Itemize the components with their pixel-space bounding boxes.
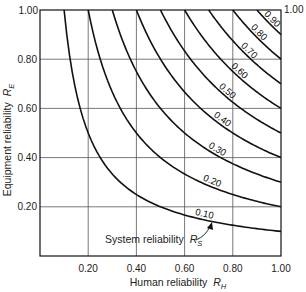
annotation-text: System reliability (105, 233, 185, 245)
y-axis-label: Equipment reliability RE (1, 83, 16, 196)
contour-label: 0.70 (239, 40, 260, 61)
y-tick-label: 0.80 (18, 54, 38, 65)
y-tick-label: 0.20 (18, 201, 38, 212)
annotation-arrowhead-icon (207, 222, 213, 230)
annotation-sub: S (197, 239, 202, 248)
annotation-system-reliability: System reliability RS (105, 233, 202, 248)
x-tick-label: 0.40 (127, 263, 147, 274)
x-tick-label: 0.20 (78, 263, 98, 274)
y-axis-label-sub: E (7, 83, 16, 89)
y-tick-label: 1.00 (19, 5, 39, 16)
contour-label: 0.50 (217, 80, 238, 100)
x-tick-label: 0.80 (223, 263, 243, 274)
y-axis-label-text: Equipment reliability (1, 102, 13, 197)
reliability-chart: 0.100.200.300.400.500.600.700.800.90 0.2… (0, 0, 306, 292)
y-tick-label: 0.40 (18, 152, 38, 163)
y-tick-label-right: 1.00 (284, 4, 304, 15)
x-axis-label: Human reliability RH (130, 276, 227, 291)
y-tick-label: 0.60 (18, 103, 38, 114)
contour-label: 0.80 (249, 21, 270, 42)
contour-label: 0.90 (262, 8, 283, 29)
x-axis-ticks: 0.200.400.600.801.00 (78, 263, 291, 274)
x-axis-label-text: Human reliability (130, 276, 208, 288)
x-tick-label: 1.00 (271, 263, 291, 274)
x-tick-label: 0.60 (175, 263, 195, 274)
x-axis-label-sub: H (221, 282, 227, 291)
